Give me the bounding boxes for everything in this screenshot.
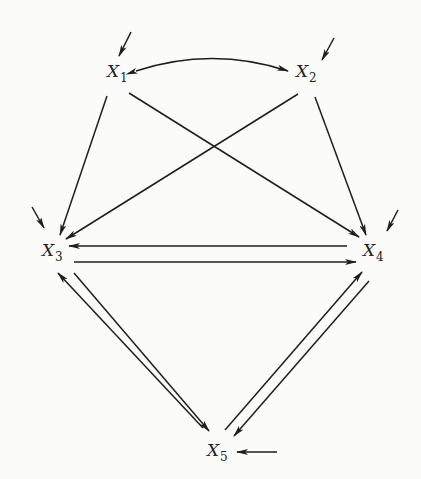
edge-x4-x5 [234,281,369,436]
node-x4-sub: 4 [376,250,384,264]
node-x2: X2 [296,63,317,84]
node-x2-sub: 2 [309,71,317,85]
node-x5-sub: 5 [220,450,228,464]
edge-x5-x4 [225,272,362,430]
node-x1: X1 [107,63,128,84]
node-x4: X4 [363,242,384,263]
node-x1-var: X [107,61,119,81]
node-x1-sub: 1 [120,71,128,85]
disturbance-x2 [322,38,334,60]
node-x4-var: X [363,240,375,260]
edge-x5-x3 [58,273,203,428]
node-x2-var: X [296,61,308,81]
node-x3: X3 [42,242,63,263]
edge-x1-x3 [60,96,107,235]
edge-x1-x4 [129,93,359,237]
path-diagram: X1 X2 X3 X4 X5 [0,0,421,479]
disturbance-x4 [387,210,398,231]
node-x5-var: X [207,440,219,460]
disturbance-x1 [119,32,131,56]
node-x5: X5 [207,442,228,463]
node-x3-sub: 3 [55,250,63,264]
edge-x3-x5 [74,273,209,431]
disturbance-x3 [32,207,44,228]
edge-x1-x2-correlation [136,59,288,72]
node-x3-var: X [42,240,54,260]
diagram-edges [0,0,421,479]
